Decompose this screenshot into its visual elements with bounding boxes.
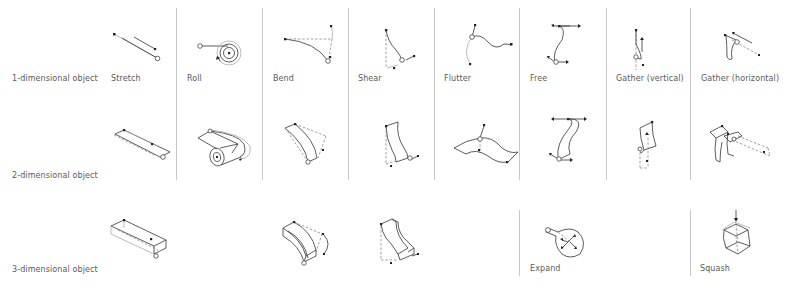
shear-box-icon <box>378 214 433 269</box>
col-label-shear: Shear <box>358 74 382 84</box>
row-label-1d: 1-dimensional object <box>12 74 98 84</box>
roll-line-icon <box>190 30 250 70</box>
stretch-box-icon <box>108 214 173 264</box>
squash-cube-icon <box>720 208 760 263</box>
col-label-free: Free <box>530 74 547 84</box>
divider <box>690 210 691 276</box>
label-squash: Squash <box>700 264 730 274</box>
col-label-gather-horizontal: Gather (horizontal) <box>701 74 779 84</box>
free-line-icon <box>540 18 600 70</box>
roll-plane-icon <box>192 124 257 172</box>
bend-line-icon <box>280 20 340 70</box>
divider <box>690 8 691 180</box>
expand-balloon-icon <box>544 222 594 264</box>
flutter-line-icon <box>450 18 520 68</box>
flutter-plane-icon <box>452 118 522 168</box>
row-label-2d: 2-dimensional object <box>12 171 98 181</box>
col-label-flutter: Flutter <box>444 74 471 84</box>
divider <box>262 8 263 180</box>
free-plane-icon <box>546 114 606 172</box>
gather-vertical-plane-icon <box>636 118 676 173</box>
divider <box>606 8 607 180</box>
col-label-stretch: Stretch <box>111 74 141 84</box>
row-label-3d: 3-dimensional object <box>12 265 98 275</box>
gather-vertical-line-icon <box>628 22 658 72</box>
divider <box>519 210 520 276</box>
divider <box>348 8 349 180</box>
shear-line-icon <box>370 20 430 72</box>
stretch-plane-icon <box>108 122 178 162</box>
gather-horizontal-plane-icon <box>708 120 778 170</box>
bend-box-icon <box>280 214 340 269</box>
gather-horizontal-line-icon <box>712 25 777 65</box>
bend-plane-icon <box>282 118 342 170</box>
col-label-bend: Bend <box>273 74 294 84</box>
col-label-gather-vertical: Gather (vertical) <box>616 74 684 84</box>
stretch-line-icon <box>100 20 170 65</box>
shear-plane-icon <box>382 118 437 170</box>
label-expand: Expand <box>530 264 561 274</box>
col-label-roll: Roll <box>187 74 202 84</box>
